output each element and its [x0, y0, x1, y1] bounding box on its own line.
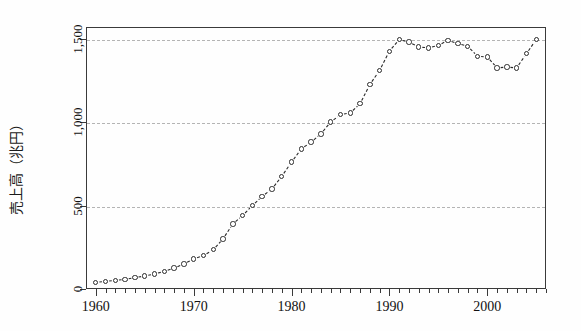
data-point — [397, 37, 402, 42]
x-axis-tick-minor — [350, 289, 351, 293]
x-axis-tick-minor — [458, 289, 459, 293]
x-axis-tick-minor — [468, 289, 469, 293]
data-point — [348, 110, 353, 115]
x-axis-tick-minor — [380, 289, 381, 293]
data-point — [171, 265, 176, 270]
x-axis-tick-minor — [155, 289, 156, 293]
x-axis-tick-minor — [174, 289, 175, 293]
x-axis-tick-minor — [448, 289, 449, 293]
y-axis-title: 売上高（兆円） — [0, 0, 30, 331]
data-point — [308, 139, 313, 144]
data-point — [289, 159, 294, 164]
data-point — [152, 271, 157, 276]
data-point — [475, 54, 480, 59]
x-axis-tick-minor — [497, 289, 498, 293]
x-axis-tick-minor — [331, 289, 332, 293]
x-axis-tick-minor — [223, 289, 224, 293]
x-axis-tick-minor — [340, 289, 341, 293]
x-axis-tick-minor — [507, 289, 508, 293]
y-axis-title-text: 売上高（兆円） — [5, 117, 25, 215]
x-axis-tick-major — [292, 289, 293, 296]
x-axis-tick-minor — [282, 289, 283, 293]
x-axis-tick-minor — [252, 289, 253, 293]
gridline — [87, 207, 545, 208]
data-point — [220, 236, 225, 241]
x-axis-tick-minor — [517, 289, 518, 293]
x-axis-tick-minor — [321, 289, 322, 293]
x-axis-tick-minor — [370, 289, 371, 293]
data-point — [436, 43, 441, 48]
x-axis-tick-minor — [213, 289, 214, 293]
x-axis-tick-major — [194, 289, 195, 296]
gridline — [87, 40, 545, 41]
x-axis-tick-major — [487, 289, 488, 296]
x-axis-tick-minor — [419, 289, 420, 293]
y-axis-tick-label: 1,000 — [70, 92, 84, 152]
x-axis-tick-minor — [262, 289, 263, 293]
data-point — [181, 261, 186, 266]
x-axis-tick-label: 1970 — [171, 299, 217, 315]
data-point — [494, 65, 499, 70]
data-point — [485, 54, 490, 59]
x-axis-tick-minor — [203, 289, 204, 293]
x-axis-tick-minor — [164, 289, 165, 293]
x-axis-tick-minor — [526, 289, 527, 293]
data-point — [318, 131, 323, 136]
x-axis-tick-minor — [115, 289, 116, 293]
x-axis-tick-major — [96, 289, 97, 296]
data-point — [514, 65, 519, 70]
x-axis-tick-major — [389, 289, 390, 296]
x-axis-tick-minor — [272, 289, 273, 293]
x-axis-tick-minor — [311, 289, 312, 293]
y-axis-tick-label: 500 — [70, 176, 84, 236]
data-point — [387, 49, 392, 54]
x-axis-tick-label: 1960 — [73, 299, 119, 315]
data-point — [259, 194, 264, 199]
data-point — [455, 41, 460, 46]
data-point — [534, 37, 539, 42]
gridline — [87, 123, 545, 124]
x-axis-tick-minor — [301, 289, 302, 293]
data-point — [299, 146, 304, 151]
x-axis-tick-minor — [477, 289, 478, 293]
data-point — [406, 39, 411, 44]
data-point — [426, 45, 431, 50]
x-axis-tick-minor — [184, 289, 185, 293]
x-axis-tick-minor — [409, 289, 410, 293]
x-axis-tick-label: 1980 — [269, 299, 315, 315]
x-axis-tick-minor — [135, 289, 136, 293]
x-axis-tick-minor — [429, 289, 430, 293]
y-axis-tick-label: 1,500 — [70, 9, 84, 69]
x-axis-tick-minor — [106, 289, 107, 293]
data-point — [122, 277, 127, 282]
x-axis-tick-minor — [536, 289, 537, 293]
x-axis-tick-label: 1990 — [366, 299, 412, 315]
x-axis-tick-minor — [438, 289, 439, 293]
data-point — [367, 82, 372, 87]
x-axis-tick-minor — [243, 289, 244, 293]
chart-figure: 売上高（兆円） 05001,0001,500 19601970198019902… — [0, 0, 581, 331]
x-axis-tick-minor — [399, 289, 400, 293]
data-point — [445, 38, 450, 43]
x-axis-tick-minor — [125, 289, 126, 293]
data-point — [113, 278, 118, 283]
data-point — [269, 186, 274, 191]
data-point — [191, 256, 196, 261]
x-axis-tick-minor — [145, 289, 146, 293]
x-axis-tick-label: 2000 — [464, 299, 510, 315]
data-point — [504, 64, 509, 69]
data-point — [230, 221, 235, 226]
x-axis-tick-minor — [360, 289, 361, 293]
x-axis-tick-minor — [233, 289, 234, 293]
x-axis-tick-minor — [546, 289, 547, 293]
plot-area — [86, 27, 546, 289]
data-point — [132, 275, 137, 280]
